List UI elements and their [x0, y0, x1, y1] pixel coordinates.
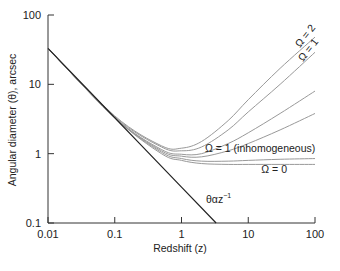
x-tick-label: 0.1 [107, 228, 122, 240]
x-ticks: 0.010.1110100 [37, 217, 324, 240]
series-line [48, 48, 216, 223]
y-tick-label: 100 [23, 9, 41, 21]
series-line [48, 48, 315, 155]
series [48, 37, 315, 223]
series-line [48, 48, 315, 151]
label-omega-1-inhomogeneous: Ω = 1 (inhomogeneous) [205, 142, 315, 154]
series-line [48, 48, 315, 157]
x-tick-label: 1 [178, 228, 184, 240]
y-ticks: 0.1110100 [23, 9, 54, 229]
x-tick-label: 10 [242, 228, 254, 240]
y-tick-label: 10 [29, 78, 41, 90]
x-tick-label: 100 [306, 228, 324, 240]
y-tick-label: 1 [35, 148, 41, 160]
label-power-law: θαz−1 [206, 192, 231, 205]
x-axis-label: Redshift (z) [153, 242, 207, 254]
label-omega-0: Ω = 0 [261, 163, 287, 175]
chart: 0.1110100 0.010.1110100 Redshift (z) Ang… [0, 0, 340, 271]
axes [48, 15, 315, 223]
x-tick-label: 0.01 [37, 228, 58, 240]
y-axis-label: Angular diameter (θ), arcsec [6, 54, 18, 186]
